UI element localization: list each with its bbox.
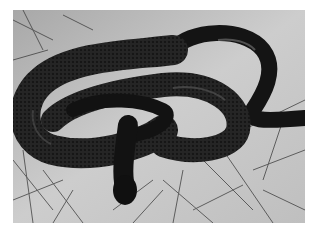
snake-photo bbox=[13, 10, 305, 223]
snake-photo-illustration bbox=[13, 10, 305, 223]
snake-head bbox=[113, 175, 137, 205]
cropped-caption-text bbox=[13, 0, 305, 8]
